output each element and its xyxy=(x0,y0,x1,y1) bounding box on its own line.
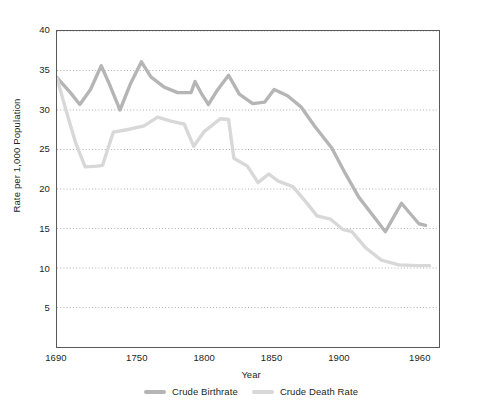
legend-swatch xyxy=(144,390,166,394)
y-tick-label: 35 xyxy=(16,64,50,75)
y-tick-label: 25 xyxy=(16,143,50,154)
y-tick-label: 40 xyxy=(16,24,50,35)
x-tick-label: 1900 xyxy=(316,352,362,363)
legend-label: Crude Birthrate xyxy=(172,386,238,397)
x-tick-label: 1690 xyxy=(33,352,79,363)
chart-legend: Crude BirthrateCrude Death Rate xyxy=(0,386,502,397)
legend-swatch xyxy=(252,390,274,394)
x-axis-title: Year xyxy=(0,369,502,380)
y-tick-label: 10 xyxy=(16,263,50,274)
y-tick-label: 5 xyxy=(16,302,50,313)
series-line-1 xyxy=(57,62,426,232)
legend-item-2: Crude Death Rate xyxy=(252,386,358,397)
x-tick-label: 1800 xyxy=(181,352,227,363)
y-tick-label: 30 xyxy=(16,104,50,115)
legend-label: Crude Death Rate xyxy=(280,386,358,397)
x-tick-label: 1750 xyxy=(114,352,160,363)
series-line-2 xyxy=(57,78,430,265)
chart-figure: Rate per 1,000 Population 51015202530354… xyxy=(0,0,502,412)
x-tick-label: 1960 xyxy=(397,352,443,363)
y-tick-label: 15 xyxy=(16,223,50,234)
plot-area xyxy=(56,30,440,348)
x-tick-label: 1850 xyxy=(249,352,295,363)
data-lines xyxy=(57,31,439,347)
y-tick-label: 20 xyxy=(16,183,50,194)
legend-item-1: Crude Birthrate xyxy=(144,386,238,397)
